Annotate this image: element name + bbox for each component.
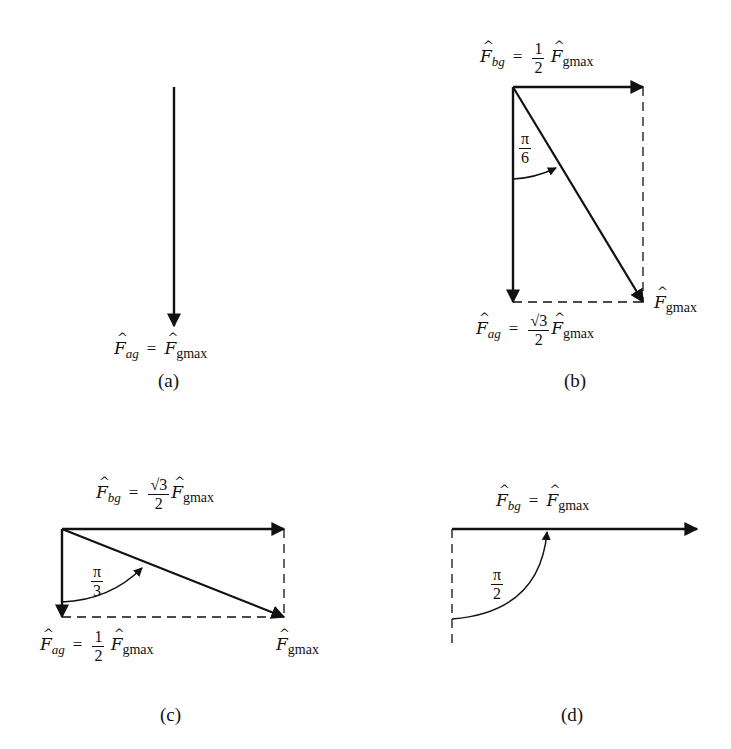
label-ag-b: Fag=√32Fgmax bbox=[476, 312, 594, 349]
label-resultant-c: Fgmax bbox=[276, 636, 319, 657]
caption-d: (d) bbox=[561, 704, 583, 726]
mmf-symbol: F bbox=[114, 340, 126, 357]
caption-c: (c) bbox=[160, 704, 181, 726]
angle-arc-pi6 bbox=[513, 168, 556, 179]
angle-label-d: π2 bbox=[489, 566, 505, 603]
label-ag-c: Fag=12 Fgmax bbox=[40, 628, 154, 665]
resultant-gmax-arrow bbox=[513, 87, 643, 302]
fraction: 12 bbox=[532, 40, 544, 77]
angle-label-c: π3 bbox=[89, 563, 105, 600]
label-bg-d: Fbg=Fgmax bbox=[496, 492, 589, 513]
label-ag-a: Fag=Fgmax bbox=[114, 340, 207, 361]
caption-a: (a) bbox=[158, 370, 179, 392]
mmf-symbol: F bbox=[164, 340, 176, 357]
caption-b: (b) bbox=[564, 370, 586, 392]
label-bg-c: Fbg=√32Fgmax bbox=[96, 476, 214, 513]
label-bg-b: Fbg=12 Fgmax bbox=[480, 40, 594, 77]
panel-b bbox=[513, 87, 643, 302]
angle-label-b: π6 bbox=[517, 130, 533, 167]
label-resultant-b: Fgmax bbox=[654, 294, 697, 315]
